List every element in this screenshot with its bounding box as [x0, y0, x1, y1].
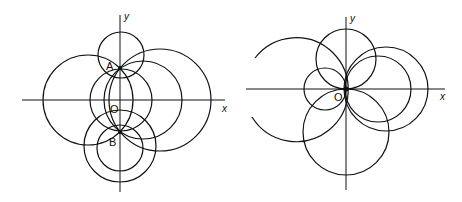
label-b: B [109, 136, 116, 148]
label-a: A [106, 60, 114, 72]
label-o: O [334, 91, 343, 103]
y-axis-label: y [349, 13, 356, 24]
y-axis-label: y [123, 11, 130, 22]
right-figure: O y x [246, 13, 446, 190]
x-axis-label: x [221, 103, 228, 114]
open-arc [252, 38, 348, 142]
x-axis-label: x [439, 91, 446, 102]
label-o: O [110, 103, 119, 115]
origin-point [344, 87, 349, 92]
point-a [118, 66, 122, 70]
circles-diagram: A B O y x O y x [0, 0, 462, 202]
point-b [118, 130, 122, 134]
left-figure: A B O y x [22, 11, 228, 192]
